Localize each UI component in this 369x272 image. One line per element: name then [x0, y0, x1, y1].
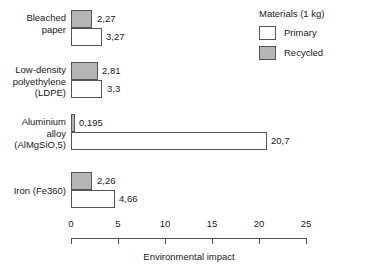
x-axis-title: Environmental impact	[71, 250, 307, 264]
x-axis-tick	[165, 238, 166, 244]
category-label-line: Iron (Fe360)	[0, 185, 66, 197]
x-axis-tick-label: 25	[301, 218, 312, 230]
x-axis-tick	[212, 238, 213, 244]
category-label-bleached-paper: Bleached paper	[0, 12, 66, 35]
bar-value-primary: 3,3	[107, 82, 120, 95]
bar-value-primary: 4,66	[119, 192, 138, 205]
bar-primary	[71, 80, 102, 98]
bar-value-primary: 20,7	[271, 134, 290, 147]
x-axis-tick	[71, 238, 72, 244]
bar-primary	[71, 28, 102, 46]
category-label-line: alloy	[0, 128, 66, 140]
chart-legend: Materials (1 kg) Primary Recycled	[259, 8, 369, 64]
bar-value-recycled: 2,26	[97, 174, 116, 187]
bar-value-recycled: 2,27	[97, 12, 116, 25]
legend-item-primary: Primary	[259, 24, 369, 42]
bar-recycled	[71, 62, 98, 80]
x-axis-line	[71, 238, 307, 239]
category-label-iron: Iron (Fe360)	[0, 185, 66, 197]
category-label-ldpe: Low-density polyethylene (LDPE)	[0, 64, 66, 99]
legend-swatch-recycled-icon	[259, 46, 276, 60]
legend-title: Materials (1 kg)	[259, 8, 369, 20]
category-label-line: Bleached	[0, 12, 66, 24]
category-label-line: (LDPE)	[0, 87, 66, 99]
legend-label-primary: Primary	[284, 27, 317, 39]
x-axis-tick	[259, 238, 260, 244]
x-axis-tick	[306, 238, 307, 244]
x-axis-tick-label: 10	[160, 218, 171, 230]
legend-swatch-primary-icon	[259, 26, 276, 40]
bar-primary	[71, 190, 115, 208]
bar-recycled	[71, 10, 92, 28]
bar-chart: Materials (1 kg) Primary Recycled Bleach…	[0, 0, 369, 272]
category-label-line: Low-density	[0, 64, 66, 76]
category-label-line: polyethylene	[0, 76, 66, 88]
category-label-line: Aluminium	[0, 116, 66, 128]
x-axis-tick-label: 20	[254, 218, 265, 230]
category-label-line: (AlMgSiO,5)	[0, 139, 66, 151]
bar-recycled	[71, 172, 92, 190]
x-axis: 0 5 10 15 20 25 Environmental impact	[0, 218, 369, 272]
bar-recycled	[71, 114, 75, 132]
bar-primary	[71, 132, 267, 150]
legend-item-recycled: Recycled	[259, 44, 369, 62]
category-label-aluminium-alloy: Aluminium alloy (AlMgSiO,5)	[0, 116, 66, 151]
x-axis-tick-label: 0	[68, 218, 73, 230]
x-axis-tick-label: 15	[207, 218, 218, 230]
legend-label-recycled: Recycled	[284, 47, 323, 59]
x-axis-tick-label: 5	[115, 218, 120, 230]
bar-value-recycled: 2,81	[102, 64, 121, 77]
bar-value-recycled: 0,195	[79, 116, 103, 129]
x-axis-tick	[118, 238, 119, 244]
bar-value-primary: 3,27	[106, 30, 125, 43]
category-label-line: paper	[0, 24, 66, 36]
